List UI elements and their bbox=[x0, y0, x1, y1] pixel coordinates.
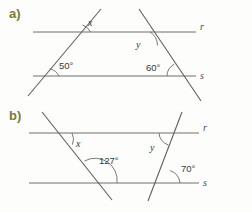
part-b-line-r-name: r bbox=[203, 122, 207, 133]
part-b-angle-127-label: 127° bbox=[99, 155, 119, 166]
part-b-angle-x-arc bbox=[72, 133, 73, 145]
parallel-lines-diagram: x 50° y 60° r s x bbox=[0, 0, 252, 212]
part-a-figure: x 50° y 60° r s bbox=[28, 9, 204, 101]
part-a-angle-y-label: y bbox=[135, 39, 141, 50]
geometry-worksheet-figure: a) b) x 50° y 60° r bbox=[0, 0, 252, 212]
part-b-line-s-name: s bbox=[203, 177, 207, 188]
part-b-angle-y-label: y bbox=[149, 142, 155, 153]
part-b-figure: x 127° y 70° r s bbox=[29, 112, 207, 201]
part-a-angle-60-label: 60° bbox=[146, 62, 161, 73]
part-b-right-transversal bbox=[148, 112, 182, 201]
part-a-angle-50-arc bbox=[50, 69, 59, 76]
part-b-angle-70-label: 70° bbox=[181, 163, 196, 174]
part-b-angle-x-label: x bbox=[75, 138, 81, 149]
part-a-angle-60-arc bbox=[167, 64, 174, 76]
part-a-angle-50-label: 50° bbox=[59, 60, 74, 71]
part-b-angle-y-arc bbox=[159, 133, 169, 145]
part-a-right-transversal bbox=[139, 9, 201, 101]
part-a-line-s-name: s bbox=[200, 70, 204, 81]
part-b-angle-70-arc bbox=[170, 171, 180, 184]
part-a-angle-x-label: x bbox=[87, 17, 93, 28]
part-a-line-r-name: r bbox=[200, 21, 204, 32]
